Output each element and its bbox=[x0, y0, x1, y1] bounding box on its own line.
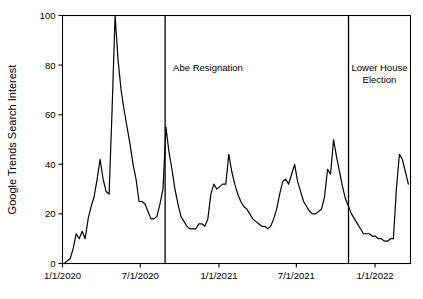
event-annotations: Abe ResignationLower HouseElection bbox=[165, 16, 407, 264]
y-tick-label: 20 bbox=[45, 208, 56, 219]
data-series-line bbox=[64, 16, 408, 264]
chart-figure: 020406080100 1/1/20207/1/20201/1/20217/1… bbox=[0, 0, 423, 299]
x-tick-label: 1/1/2022 bbox=[357, 270, 394, 281]
event-label-lower-house-election: Lower House bbox=[352, 62, 408, 73]
x-tick-label: 1/1/2020 bbox=[44, 270, 81, 281]
event-label-abe-resignation: Abe Resignation bbox=[173, 62, 243, 73]
y-tick-label: 80 bbox=[45, 60, 56, 71]
y-tick-label: 0 bbox=[50, 258, 55, 269]
x-tick-label: 1/1/2021 bbox=[200, 270, 237, 281]
y-tick-label: 40 bbox=[45, 159, 56, 170]
event-label-lower-house-election: Election bbox=[363, 74, 397, 85]
x-tick-label: 7/1/2021 bbox=[278, 270, 315, 281]
line-chart: 020406080100 1/1/20207/1/20201/1/20217/1… bbox=[0, 0, 423, 299]
y-axis-title: Google Trends Search Interest bbox=[6, 65, 18, 215]
y-tick-label: 100 bbox=[40, 10, 56, 21]
x-axis-ticks: 1/1/20207/1/20201/1/20217/1/20211/1/2022 bbox=[44, 264, 394, 281]
y-tick-label: 60 bbox=[45, 109, 56, 120]
y-axis-ticks: 020406080100 bbox=[40, 10, 63, 269]
x-tick-label: 7/1/2020 bbox=[122, 270, 159, 281]
